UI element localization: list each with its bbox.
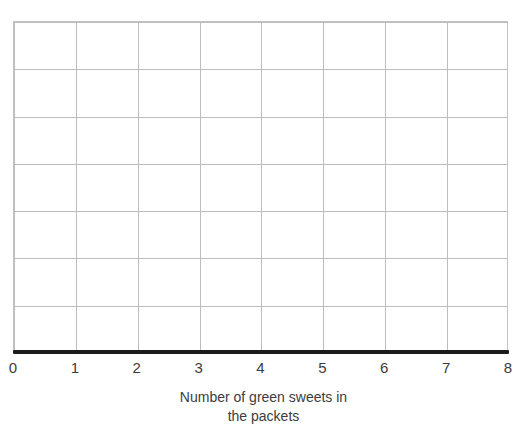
x-tick-label-2: 2 xyxy=(117,358,157,378)
x-axis-title-line-2: the packets xyxy=(0,407,527,426)
x-axis-title-line-1: Number of green sweets in xyxy=(0,388,527,407)
x-axis-line xyxy=(13,350,509,354)
x-tick-label-6: 6 xyxy=(364,358,404,378)
x-tick-label-0: 0 xyxy=(0,358,33,378)
x-tick-label-3: 3 xyxy=(179,358,219,378)
x-tick-label-7: 7 xyxy=(426,358,466,378)
x-tick-label-5: 5 xyxy=(302,358,342,378)
x-tick-label-1: 1 xyxy=(55,358,95,378)
x-tick-label-8: 8 xyxy=(488,358,527,378)
x-axis-title: Number of green sweets in the packets xyxy=(0,388,527,426)
x-tick-label-4: 4 xyxy=(241,358,281,378)
bar-chart: 012345678 Number of green sweets in the … xyxy=(0,0,527,427)
bars-layer xyxy=(13,21,508,352)
x-axis-tick-labels: 012345678 xyxy=(0,358,527,380)
clipped-chart-title xyxy=(0,0,527,2)
